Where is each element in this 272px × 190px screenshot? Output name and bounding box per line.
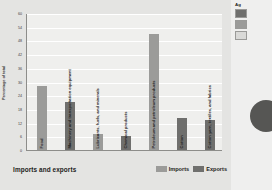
- legend-swatch-exports-icon: [193, 166, 204, 172]
- y-axis-tick-label: 24: [18, 94, 22, 98]
- side-panel-title: Ag: [235, 2, 241, 7]
- side-panel-swatch-list: [235, 9, 247, 42]
- legend-item-imports: Imports: [156, 166, 190, 172]
- legend-swatch-imports-icon: [156, 166, 167, 172]
- bar-category-label: Petroleum and petroleum products: [151, 80, 155, 148]
- bar-category-label: Food: [39, 138, 43, 148]
- chart-legend: Imports Exports: [156, 166, 227, 172]
- screenshot-root: Percentage of total 06121824303642485460…: [0, 0, 272, 190]
- y-axis-tick-label: 30: [18, 81, 22, 85]
- y-axis-tick-label: 42: [18, 53, 22, 57]
- chart-card: Percentage of total 06121824303642485460…: [0, 0, 231, 190]
- y-axis-tick-label: 12: [18, 122, 22, 126]
- side-panel-swatch-row[interactable]: [235, 31, 247, 40]
- bar-group: FoodMachinery and transportation equipme…: [27, 14, 222, 150]
- y-axis-tick-label: 18: [18, 108, 22, 112]
- side-panel-swatch-icon[interactable]: [235, 31, 247, 40]
- side-panel-swatch-icon[interactable]: [235, 9, 247, 18]
- side-panel-circle-icon: [250, 100, 272, 132]
- y-axis-tick-label: 36: [18, 67, 22, 71]
- side-panel-swatch-icon[interactable]: [235, 20, 247, 29]
- y-axis-tick-label: 60: [18, 12, 22, 16]
- y-axis-tick-label: 6: [20, 135, 22, 139]
- side-panel: Ag: [231, 0, 272, 190]
- chart-title: Imports and exports: [13, 166, 76, 173]
- y-axis-tick-label: 48: [18, 39, 22, 43]
- side-panel-swatch-row[interactable]: [235, 20, 247, 29]
- legend-label-exports: Exports: [206, 166, 227, 172]
- plot-area: FoodMachinery and transportation equipme…: [26, 14, 222, 151]
- bar-category-label: Machinery and transportation equipment: [67, 69, 71, 148]
- bar-category-label: Chemical products: [123, 111, 127, 148]
- y-axis-tick-label: 0: [20, 149, 22, 153]
- legend-item-exports: Exports: [193, 166, 227, 172]
- legend-label-imports: Imports: [169, 166, 190, 172]
- y-axis-tick-labels: 06121824303642485460: [0, 14, 24, 151]
- bar-category-label: Cotton yarn, textiles, and fabrics: [207, 85, 211, 148]
- y-axis-tick-label: 54: [18, 26, 22, 30]
- bar-category-label: Lubricants, fuels, and minerals: [95, 88, 99, 148]
- side-panel-swatch-row[interactable]: [235, 9, 247, 18]
- bar-category-label: Cotton: [179, 135, 183, 148]
